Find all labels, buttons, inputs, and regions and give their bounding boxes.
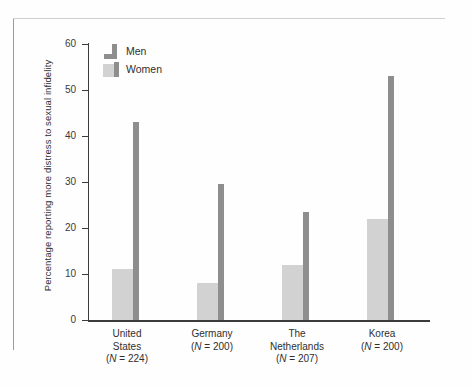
bar-men [133, 122, 139, 320]
y-tick-label-text: 50 [50, 85, 76, 95]
y-tick-label-text: 10 [50, 269, 76, 279]
men-swatch-bar-icon [112, 44, 117, 59]
legend-item-men: Men [100, 44, 250, 62]
x-label-sample-size: (N = 200) [327, 341, 437, 354]
bar-men [303, 212, 309, 320]
bar-men [388, 76, 394, 320]
y-tick-label: 50 [50, 85, 76, 95]
y-tick-label: 10 [50, 269, 76, 279]
y-tick-label: 30 [50, 177, 76, 187]
legend-item-women: Women [100, 62, 250, 80]
y-tick-label-text: 0 [50, 315, 76, 325]
legend-label-men: Men [126, 45, 146, 57]
y-tick-mark [82, 320, 89, 321]
x-label-line-1: Korea [327, 328, 437, 341]
y-tick-label-text: 60 [50, 39, 76, 49]
women-swatch-bar-icon [114, 62, 119, 77]
bar-men [218, 184, 224, 320]
x-label-sample-size: (N = 224) [72, 353, 182, 366]
chart-legend: Men Women [100, 44, 250, 84]
figure-panel: Percentage reporting more distress to se… [0, 0, 472, 387]
y-tick-label: 60 [50, 39, 76, 49]
y-tick-label-text: 20 [50, 223, 76, 233]
y-tick-label-text: 40 [50, 131, 76, 141]
y-tick-mark [82, 136, 89, 137]
x-label-sample-size: (N = 207) [242, 353, 352, 366]
y-tick-mark [82, 90, 89, 91]
y-tick-mark [82, 274, 89, 275]
y-tick-mark [82, 182, 89, 183]
x-axis-group-label: Korea(N = 200) [327, 328, 437, 353]
y-tick-label: 0 [50, 315, 76, 325]
y-tick-label: 40 [50, 131, 76, 141]
y-tick-label-text: 30 [50, 177, 76, 187]
plot-area: Percentage reporting more distress to se… [0, 0, 472, 387]
y-tick-mark [82, 44, 89, 45]
legend-label-women: Women [126, 63, 162, 75]
x-axis-line [88, 320, 430, 322]
y-tick-label: 20 [50, 223, 76, 233]
y-tick-mark [82, 228, 89, 229]
